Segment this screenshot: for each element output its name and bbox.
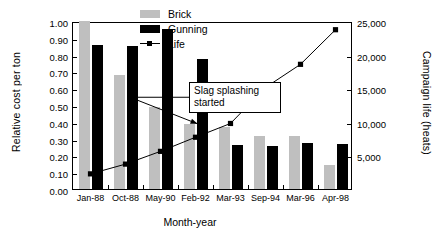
y-axis-left-tick-label: 0.70 — [50, 68, 74, 79]
x-axis-tick-label: Sep-94 — [251, 193, 280, 203]
y-axis-left-tick-label: 0.40 — [50, 118, 74, 129]
x-axis-tick-label: Jan-88 — [77, 193, 105, 203]
x-axis-tick-mark — [108, 185, 109, 189]
x-axis-tick-label: Feb-92 — [181, 193, 210, 203]
y-axis-left-tick-label: 0.90 — [50, 34, 74, 45]
legend-label: Life — [168, 38, 185, 50]
y-axis-left-tick-label: 0.50 — [50, 102, 74, 113]
y-axis-left-tick-label: 1.00 — [50, 18, 74, 29]
x-axis-tick-mark — [178, 185, 179, 189]
x-axis-title: Month-year — [0, 216, 380, 228]
y-axis-left-tick-label: 0.00 — [50, 186, 74, 197]
annotation-slag-splashing: Slag splashing started — [189, 82, 281, 113]
y-axis-right-tick-label: 15,000 — [351, 85, 386, 96]
y-axis-left-tick-label: 0.80 — [50, 51, 74, 62]
brick-swatch — [140, 10, 160, 18]
x-axis-tick-mark — [283, 185, 284, 189]
x-axis-tick-label: Mar-93 — [216, 193, 245, 203]
chart-legend: BrickGunningLife — [140, 6, 208, 51]
y-axis-right-tick-label: 5,000 — [351, 152, 381, 163]
leader-polyline — [130, 97, 198, 124]
legend-label: Brick — [168, 8, 191, 20]
chart-figure: Relative cost per ton Campaign life (hea… — [0, 0, 446, 244]
y-axis-right-tick-label: 20,000 — [351, 51, 386, 62]
y-axis-right-tick-label: 25,000 — [351, 18, 386, 29]
y-axis-left-tick-label: 0.60 — [50, 85, 74, 96]
legend-entry: Life — [140, 36, 208, 51]
y-axis-left-tick-label: 0.20 — [50, 152, 74, 163]
x-axis-tick-label: Apr-98 — [322, 193, 349, 203]
x-axis-tick-label: May-90 — [145, 193, 175, 203]
x-axis-tick-mark — [143, 185, 144, 189]
x-axis-tick-mark — [318, 185, 319, 189]
leader-arrowhead-icon — [190, 119, 198, 124]
y-axis-left-tick-label: 0.10 — [50, 169, 74, 180]
y-axis-right-tick-label: 10,000 — [351, 118, 386, 129]
x-axis-tick-mark — [213, 185, 214, 189]
life-line-marker — [140, 40, 160, 48]
y-axis-left-title: Relative cost per ton — [8, 22, 24, 182]
legend-label: Gunning — [168, 23, 208, 35]
x-axis-tick-label: Oct-88 — [112, 193, 139, 203]
x-axis-tick-label: Mar-96 — [286, 193, 315, 203]
x-axis-tick-mark — [248, 185, 249, 189]
gunning-swatch — [140, 25, 160, 33]
annotation-line-1: Slag splashing — [194, 85, 276, 97]
y-axis-right-title: Campaign life (heats) — [418, 18, 436, 188]
annotation-line-2: started — [194, 97, 276, 109]
legend-entry: Brick — [140, 6, 208, 21]
legend-entry: Gunning — [140, 21, 208, 36]
y-axis-left-tick-label: 0.30 — [50, 135, 74, 146]
